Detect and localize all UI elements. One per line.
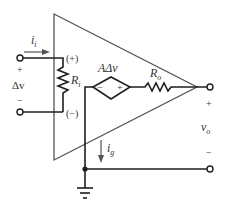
output-plus-terminal[interactable] [207, 84, 213, 90]
ground-current-label: ig [107, 141, 114, 157]
input-voltage-label: Δv [12, 79, 25, 91]
input-voltage-plus: + [17, 64, 23, 75]
input-resistor-ri [58, 64, 68, 112]
dependent-source-label: AΔv [97, 61, 118, 75]
input-voltage-minus: − [17, 95, 23, 106]
dependent-source-plus: + [117, 82, 123, 93]
input-plus-wire [23, 58, 63, 64]
output-voltage-label: vo [201, 120, 210, 136]
input-plus-terminal[interactable] [17, 55, 23, 61]
output-voltage-minus: − [206, 147, 212, 158]
input-current-arrow-icon [42, 49, 50, 55]
input-minus-terminal[interactable] [17, 109, 23, 115]
minus-input-label: (−) [66, 108, 78, 120]
dependent-source-minus: − [97, 82, 103, 93]
plus-input-label: (+) [66, 53, 78, 65]
ground-current-arrow-icon [98, 155, 104, 163]
input-resistor-label: Ri [70, 73, 81, 89]
input-current-label: ii [31, 33, 37, 49]
op-amp-circuit-diagram: ii (+) (−) + Δv − Ri AΔv − + Ro + vo − i… [0, 0, 225, 208]
ground-icon [77, 169, 93, 198]
output-resistor-ro [130, 83, 207, 91]
output-voltage-plus: + [206, 98, 212, 109]
output-minus-terminal[interactable] [207, 166, 213, 172]
source-return-wire [85, 87, 93, 169]
